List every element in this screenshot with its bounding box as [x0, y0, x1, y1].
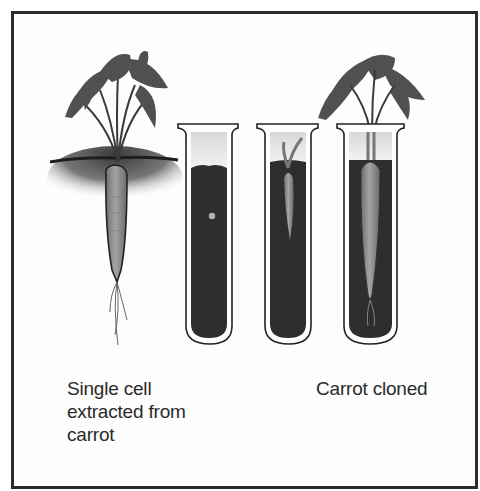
label-line: extracted from [67, 400, 186, 423]
nutrient-medium [191, 165, 227, 338]
parent-carrot [47, 51, 183, 345]
label-line: Carrot cloned [316, 377, 427, 400]
label-carrot-cloned: Carrot cloned [316, 377, 427, 400]
label-single-cell-extracted: Single cell extracted from carrot [67, 377, 186, 446]
single-cell-icon [209, 213, 215, 219]
carrot-root [106, 165, 127, 282]
test-tube-cloned-carrot [318, 55, 425, 344]
label-line: carrot [67, 423, 186, 446]
label-line: Single cell [67, 377, 186, 400]
test-tube-plantlet [257, 124, 318, 344]
test-tube-single-cell [178, 124, 238, 344]
root-hairs [110, 282, 127, 345]
